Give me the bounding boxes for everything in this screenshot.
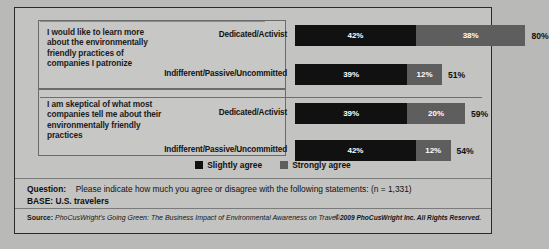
- bar-segment-strongly-agree: 20%: [407, 103, 465, 124]
- bar-segment-strongly-agree: 12%: [407, 64, 442, 85]
- legend-label: Strongly agree: [292, 160, 351, 170]
- bar-total-label: 80%: [525, 25, 548, 46]
- footer-rule-top: [15, 178, 491, 179]
- bar-segment-strongly-agree: 12%: [416, 140, 451, 161]
- question-text: Please indicate how much you agree or di…: [76, 184, 412, 194]
- question-line: Question: Please indicate how much you a…: [27, 184, 412, 194]
- footer-rule-bottom: [15, 208, 491, 209]
- bar-segment-slightly-agree: 42%: [295, 25, 416, 46]
- stacked-bar: 42%38%: [295, 25, 525, 46]
- base-line: BASE: U.S. travelers: [27, 196, 109, 206]
- copyright-line: ©2009 PhoCusWright Inc. All Rights Reser…: [335, 214, 481, 221]
- chart-figure: I would like to learn more about the env…: [14, 7, 492, 234]
- legend-swatch-icon: [195, 161, 203, 169]
- stacked-bar: 39%12%: [295, 64, 442, 85]
- source-line: Source: PhoCusWright's Going Green: The …: [27, 214, 338, 221]
- chart-legend: Slightly agree Strongly agree: [15, 160, 491, 170]
- bar-total-label: 54%: [451, 140, 474, 161]
- stacked-bar: 39%20%: [295, 103, 465, 124]
- stacked-bar: 42%12%: [295, 140, 451, 161]
- chart-plot-area: I would like to learn more about the env…: [15, 8, 491, 164]
- group-divider: [40, 97, 482, 98]
- category-label-0: Dedicated/Activist: [119, 30, 287, 39]
- bar-segment-strongly-agree: 38%: [416, 25, 525, 46]
- category-label-3: Indifferent/Passive/Uncommitted: [119, 145, 287, 154]
- bar-total-label: 51%: [442, 64, 465, 85]
- legend-item-slightly-agree: Slightly agree: [195, 160, 262, 170]
- bar-total-label: 59%: [465, 103, 488, 124]
- bar-segment-slightly-agree: 39%: [295, 64, 407, 85]
- bar-segment-slightly-agree: 42%: [295, 140, 416, 161]
- legend-item-strongly-agree: Strongly agree: [280, 160, 351, 170]
- question-label: Question:: [27, 184, 66, 194]
- source-text: PhoCusWright's Going Green: The Business…: [55, 214, 338, 221]
- bar-segment-slightly-agree: 39%: [295, 103, 407, 124]
- source-label: Source:: [27, 214, 53, 221]
- category-label-1: Indifferent/Passive/Uncommitted: [119, 69, 287, 78]
- legend-swatch-icon: [280, 161, 288, 169]
- category-label-2: Dedicated/Activist: [119, 108, 287, 117]
- legend-label: Slightly agree: [207, 160, 262, 170]
- statement-label-2: I am skeptical of what most companies te…: [47, 99, 167, 141]
